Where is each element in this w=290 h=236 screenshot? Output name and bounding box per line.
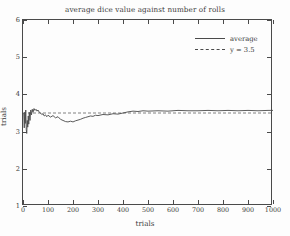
x-axis-tick-label: 100 xyxy=(42,206,54,214)
x-axis-tick-label: 300 xyxy=(92,206,104,214)
y-axis-tick xyxy=(267,169,271,170)
x-axis-tick-label: 700 xyxy=(192,206,204,214)
x-axis-tick xyxy=(73,20,74,24)
x-axis-tick-label: 200 xyxy=(67,206,79,214)
x-axis-tick xyxy=(223,200,224,204)
x-axis-tick xyxy=(223,20,224,24)
x-axis-tick xyxy=(123,200,124,204)
x-axis-tick xyxy=(273,200,274,204)
x-axis-tick xyxy=(98,200,99,204)
x-axis-tick-label: 900 xyxy=(242,206,254,214)
y-axis-tick xyxy=(267,132,271,133)
x-axis-tick-label: 0 xyxy=(21,206,25,214)
y-axis-tick-label: 3 xyxy=(16,128,20,136)
y-axis-tick xyxy=(267,94,271,95)
x-axis-tick xyxy=(98,20,99,24)
y-axis-tick-label: 4 xyxy=(16,90,20,98)
x-axis-tick xyxy=(248,20,249,24)
x-axis-tick xyxy=(173,200,174,204)
legend-label: y = 3.5 xyxy=(230,46,270,54)
x-axis-tick xyxy=(198,200,199,204)
x-axis-tick-label: 800 xyxy=(217,206,229,214)
legend-key-dashed xyxy=(195,47,225,53)
x-axis-tick xyxy=(148,20,149,24)
y-axis-tick-label: 6 xyxy=(16,16,20,24)
x-axis-tick xyxy=(173,20,174,24)
x-axis-tick xyxy=(148,200,149,204)
y-axis-tick xyxy=(267,57,271,58)
series-path xyxy=(23,109,273,134)
x-axis-tick xyxy=(198,20,199,24)
y-axis-tick xyxy=(23,94,27,95)
y-axis-tick xyxy=(23,132,27,133)
chart-title: average dice value against number of rol… xyxy=(0,5,290,14)
y-axis-tick xyxy=(267,20,271,21)
chart-container: average dice value against number of rol… xyxy=(0,0,290,236)
x-axis-tick xyxy=(273,20,274,24)
y-axis-tick xyxy=(23,169,27,170)
x-axis-tick xyxy=(73,200,74,204)
legend-item: average xyxy=(186,33,270,44)
x-axis-title: trials xyxy=(0,219,290,228)
legend-label: average xyxy=(230,35,270,43)
y-axis-tick-label: 5 xyxy=(16,53,20,61)
legend-item: y = 3.5 xyxy=(186,44,270,55)
x-axis-tick-label: 600 xyxy=(167,206,179,214)
x-axis-tick xyxy=(23,200,24,204)
x-axis-tick-label: 1000 xyxy=(265,206,281,214)
y-axis-tick xyxy=(23,57,27,58)
x-axis-tick xyxy=(48,20,49,24)
x-axis-tick xyxy=(23,20,24,24)
legend-key-solid xyxy=(195,36,225,42)
x-axis-tick-label: 500 xyxy=(142,206,154,214)
y-axis-tick-label: 1 xyxy=(16,202,20,210)
y-axis-title: trials xyxy=(0,107,8,126)
x-axis-tick-label: 400 xyxy=(117,206,129,214)
x-axis-tick xyxy=(123,20,124,24)
x-axis-tick xyxy=(248,200,249,204)
y-axis-tick-label: 2 xyxy=(16,165,20,173)
x-axis-tick xyxy=(48,200,49,204)
chart-legend: averagey = 3.5 xyxy=(186,33,270,55)
